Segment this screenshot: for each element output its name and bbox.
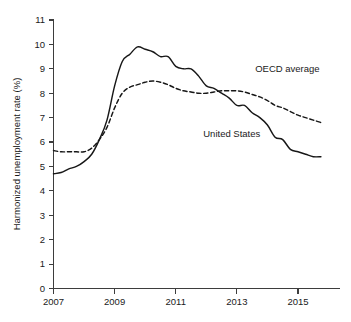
caption-sliver [8,314,343,322]
y-tick-label: 11 [35,14,45,25]
series-line-oecd-average [54,81,321,152]
chart-container: 01234567891011 20072009201120132015 Harm… [0,0,351,322]
x-tick-label: 2015 [287,296,308,307]
series-annotations: OECD averageUnited States [203,63,319,139]
x-tick-label: 2011 [166,296,186,307]
series-annotation-united-states: United States [203,128,260,139]
y-tick-label: 3 [40,210,45,221]
y-tick-label: 9 [40,63,45,74]
y-tick-label: 8 [40,88,45,99]
series-annotation-oecd-average: OECD average [255,63,319,74]
y-tick-label: 1 [40,258,45,269]
x-tick-label: 2013 [226,296,247,307]
y-tick-label: 10 [34,39,45,50]
y-axis-ticks: 01234567891011 [34,14,53,294]
y-tick-label: 0 [40,283,45,294]
x-tick-label: 2009 [104,296,125,307]
y-tick-label: 6 [40,136,45,147]
y-tick-label: 2 [40,234,45,245]
y-tick-label: 5 [40,161,45,172]
axes [54,20,341,289]
y-tick-label: 7 [40,112,45,123]
unemployment-rate-line-chart: 01234567891011 20072009201120132015 Harm… [0,0,351,322]
x-axis-ticks: 20072009201120132015 [43,289,309,308]
y-axis-title: Harmonized unemployment rate (%) [11,78,22,231]
y-tick-label: 4 [40,185,45,196]
x-tick-label: 2007 [43,296,64,307]
